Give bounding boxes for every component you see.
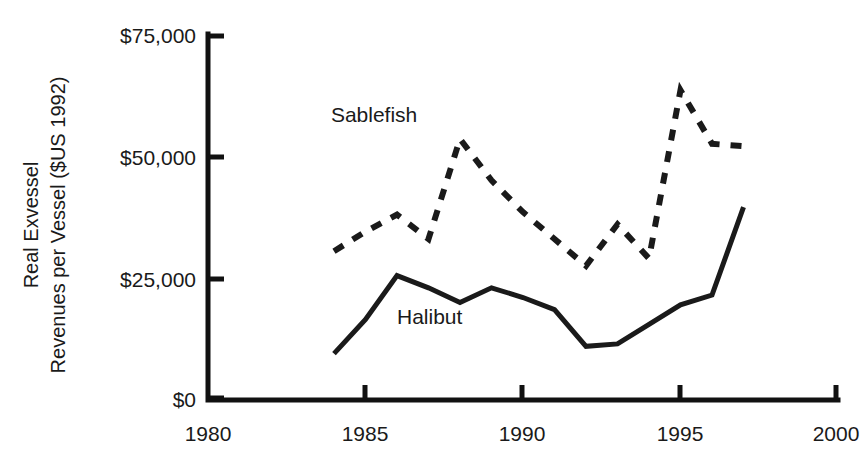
x-tick-label-1990: 1990 (499, 422, 546, 445)
plot-series (334, 90, 744, 354)
y-tick-label-0: $0 (173, 388, 196, 411)
axes (208, 34, 838, 400)
x-tick-label-1980: 1980 (185, 422, 232, 445)
axis-lines (208, 34, 838, 400)
y-axis-tick-labels: $75,000 $50,000 $25,000 $0 (120, 24, 196, 411)
y-axis-title: Real Exvessel Revenues per Vessel ($US 1… (20, 77, 69, 374)
y-tick-label-75000: $75,000 (120, 24, 196, 47)
y-axis-title-line-1: Real Exvessel (20, 162, 42, 289)
x-tick-label-2000: 2000 (813, 422, 860, 445)
series-label-sablefish: Sablefish (331, 103, 417, 126)
x-tick-label-1985: 1985 (342, 422, 389, 445)
x-axis-tick-labels: 1980 1985 1990 1995 2000 (185, 422, 860, 445)
line-chart: Real Exvessel Revenues per Vessel ($US 1… (0, 0, 860, 466)
y-axis-title-line-2: Revenues per Vessel ($US 1992) (47, 77, 69, 374)
y-tick-label-25000: $25,000 (120, 268, 196, 291)
y-tick-label-50000: $50,000 (120, 146, 196, 169)
series-label-halibut: Halibut (397, 305, 463, 328)
chart-container: Real Exvessel Revenues per Vessel ($US 1… (0, 0, 860, 466)
x-tick-label-1995: 1995 (657, 422, 704, 445)
